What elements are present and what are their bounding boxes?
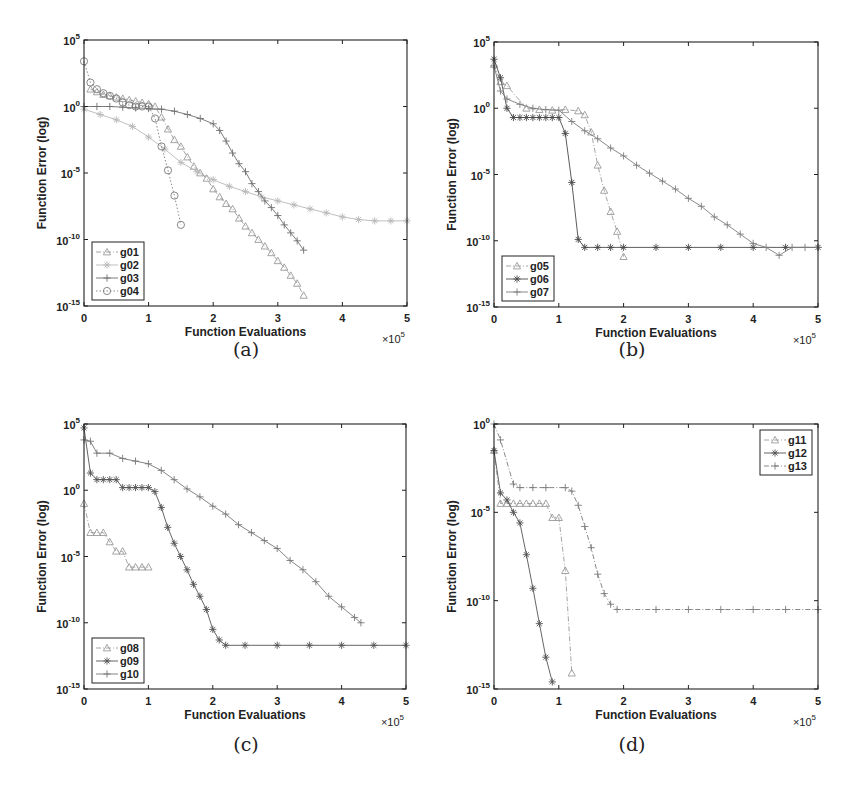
y-tick-label: 10-5: [61, 549, 81, 564]
x-tick-label: 1: [556, 313, 562, 325]
x-tick-label: 2: [210, 312, 216, 324]
y-tick-label: 105: [63, 32, 80, 47]
legend-label-g08: g08: [120, 642, 139, 654]
x-multiplier: ×105: [793, 331, 817, 346]
legend-label-g10: g10: [120, 668, 139, 680]
y-tick-label: 105: [473, 34, 490, 49]
series-g03: [80, 103, 307, 254]
x-tick-label: 2: [621, 695, 627, 707]
chart-a: 01234510510010-510-1010-15Function Evalu…: [0, 0, 425, 390]
y-tick-label: 10-10: [466, 233, 490, 248]
x-tick-label: 0: [81, 695, 87, 707]
x-tick-label: 5: [815, 313, 821, 325]
series-g12: [490, 447, 556, 686]
x-tick-label: 1: [556, 695, 562, 707]
legend-label-g03: g03: [120, 272, 139, 284]
y-tick-label: 10-10: [56, 615, 80, 630]
y-tick-label: 10-5: [471, 504, 491, 519]
x-tick-label: 0: [491, 695, 497, 707]
chart-panel-a: 01234510510010-510-1010-15Function Evalu…: [0, 0, 425, 390]
x-tick-label: 0: [491, 313, 497, 325]
series-g02: [80, 106, 410, 225]
chart-panel-b: 01234510510010-510-1010-15Function Evalu…: [425, 0, 850, 390]
chart-c: 01234510510010-510-1010-15Function Evalu…: [0, 390, 425, 797]
series-g07: [490, 62, 821, 259]
series-g09: [80, 424, 409, 649]
x-tick-label: 3: [685, 695, 691, 707]
x-tick-label: 1: [146, 312, 152, 324]
y-axis-label: Function Error (log): [35, 500, 49, 613]
y-tick-label: 100: [63, 99, 80, 114]
legend-label-g05: g05: [530, 260, 549, 272]
x-multiplier: ×105: [793, 713, 817, 728]
y-tick-label: 100: [473, 416, 490, 431]
x-tick-label: 3: [275, 312, 281, 324]
legend-label-g07: g07: [530, 286, 549, 298]
x-multiplier: ×105: [381, 713, 405, 728]
y-tick-label: 105: [63, 416, 80, 431]
y-tick-label: 10-15: [56, 298, 80, 313]
x-tick-label: 4: [339, 312, 346, 324]
y-axis-label: Function Error (log): [445, 118, 459, 231]
series-g04: [80, 58, 184, 229]
x-tick-label: 4: [339, 695, 346, 707]
y-tick-label: 100: [63, 482, 80, 497]
caption-c: (c): [216, 733, 276, 755]
chart-panel-c: 01234510510010-510-1010-15Function Evalu…: [0, 390, 425, 797]
series-g05: [490, 61, 627, 260]
y-tick-label: 10-5: [61, 165, 81, 180]
x-tick-label: 0: [81, 312, 87, 324]
caption-b: (b): [602, 338, 662, 360]
chart-b: 01234510510010-510-1010-15Function Evalu…: [425, 0, 850, 390]
x-multiplier: ×105: [382, 330, 406, 345]
y-axis-label: Function Error (log): [35, 117, 49, 230]
legend: g01g02g03g04: [92, 242, 144, 300]
x-tick-label: 2: [210, 695, 216, 707]
legend: g05g06g07: [502, 256, 554, 301]
y-tick-label: 10-15: [466, 299, 490, 314]
x-tick-label: 5: [403, 695, 409, 707]
x-axis-label: Function Evaluations: [185, 325, 307, 339]
y-axis-label: Function Error (log): [445, 500, 459, 613]
x-axis-label: Function Evaluations: [184, 708, 306, 722]
legend-label-g06: g06: [530, 273, 549, 285]
y-tick-label: 10-10: [56, 232, 80, 247]
legend-label-g11: g11: [788, 434, 806, 446]
y-tick-label: 10-15: [56, 681, 80, 696]
y-tick-label: 10-15: [466, 681, 490, 696]
legend-label-g13: g13: [788, 460, 807, 472]
series-g10: [80, 436, 364, 626]
series-g06: [490, 56, 821, 251]
legend-label-g09: g09: [120, 655, 139, 667]
legend: g08g09g10: [92, 638, 144, 683]
legend-label-g01: g01: [120, 246, 139, 258]
y-tick-label: 10-10: [466, 593, 490, 608]
x-tick-label: 2: [621, 313, 627, 325]
x-tick-label: 3: [685, 313, 691, 325]
legend: g11g12g13: [760, 430, 812, 475]
x-tick-label: 4: [750, 695, 757, 707]
x-tick-label: 5: [815, 695, 821, 707]
caption-a: (a): [216, 338, 276, 360]
legend-label-g12: g12: [788, 447, 807, 459]
y-tick-label: 10-5: [471, 167, 491, 182]
x-tick-label: 3: [274, 695, 280, 707]
x-tick-label: 1: [145, 695, 151, 707]
series-g08: [80, 500, 152, 570]
x-axis-label: Function Evaluations: [595, 708, 717, 722]
legend-label-g04: g04: [120, 285, 140, 297]
y-tick-label: 100: [473, 100, 490, 115]
x-tick-label: 4: [750, 313, 757, 325]
legend-label-g02: g02: [120, 259, 139, 271]
x-tick-label: 5: [404, 312, 410, 324]
caption-d: (d): [602, 733, 662, 755]
series-g11: [490, 447, 575, 676]
